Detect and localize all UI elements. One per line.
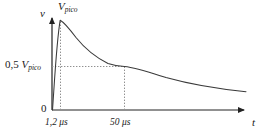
peak-value-label: Vpico [58, 1, 78, 12]
tail-time-tick-label: 50 μs [110, 118, 130, 128]
y-axis-label: v [40, 8, 45, 19]
peak-value-subscript: pico [65, 5, 78, 14]
origin-label: 0 [41, 103, 47, 114]
half-peak-value-label: 0,5 Vpico [5, 59, 41, 70]
half-peak-subscript: pico [28, 63, 41, 72]
half-peak-coefficient: 0,5 [5, 58, 22, 70]
x-axis-label: t [252, 117, 255, 128]
peak-value-symbol: V [58, 0, 65, 12]
front-time-tick-label: 1,2 μs [45, 118, 68, 128]
impulse-waveform-figure: v t Vpico 0,5 Vpico 0 1,2 μs 50 μs [0, 0, 270, 138]
impulse-curve [53, 20, 247, 110]
